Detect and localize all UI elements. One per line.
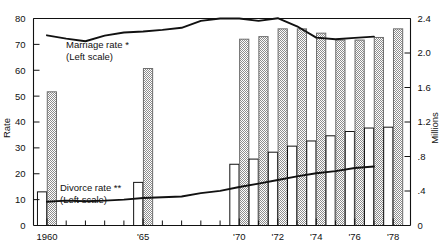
bar-marriages-1976 xyxy=(355,40,364,225)
x-ticklabel-'70: '70 xyxy=(233,231,245,242)
bar-marriages-1975 xyxy=(336,40,345,225)
bar-divorces-1975 xyxy=(326,136,335,226)
chart-canvas: 010203040506070800.4.81.21.62.02.41960'6… xyxy=(0,0,445,248)
bar-marriages-1978 xyxy=(393,29,402,226)
y-left-ticklabel-20: 20 xyxy=(15,168,26,179)
bar-divorces-1976 xyxy=(345,131,354,225)
bar-divorces-1960 xyxy=(37,192,46,226)
y-right-ticklabel-2.0: 2.0 xyxy=(418,47,431,58)
bar-divorces-1972 xyxy=(268,152,277,225)
y-left-ticklabel-30: 30 xyxy=(15,142,26,153)
y-right-ticklabel-.4: .4 xyxy=(418,185,426,196)
annotation-marriage-rate: Marriage rate * (Left scale) xyxy=(66,39,129,62)
y-right-ticklabel-.8: .8 xyxy=(418,151,426,162)
y-axis-left-title: Rate xyxy=(1,118,12,138)
y-right-ticklabel-1.6: 1.6 xyxy=(418,82,431,93)
bar-divorces-1965 xyxy=(134,182,143,225)
annotation-divorce-line2: (Left scale) xyxy=(60,194,107,205)
bar-marriages-1977 xyxy=(374,37,383,225)
y-left-ticklabel-10: 10 xyxy=(15,194,26,205)
bar-marriages-1965 xyxy=(143,69,152,226)
annotation-divorce-rate: Divorce rate ** (Left scale) xyxy=(60,182,122,205)
bar-marriages-1972 xyxy=(278,29,287,226)
y-left-ticklabel-80: 80 xyxy=(15,13,26,24)
x-ticklabel-'76: '76 xyxy=(349,231,361,242)
x-ticklabel-1960: 1960 xyxy=(36,231,57,242)
annotation-marriage-line1: Marriage rate * xyxy=(66,39,129,50)
y-left-ticklabel-50: 50 xyxy=(15,91,26,102)
y-left-ticklabel-70: 70 xyxy=(15,39,26,50)
bar-divorces-1978 xyxy=(384,127,393,225)
bar-marriages-1973 xyxy=(297,29,306,226)
y-left-ticklabel-40: 40 xyxy=(15,116,26,127)
x-ticklabel-'78: '78 xyxy=(387,231,399,242)
x-ticklabel-'74: '74 xyxy=(310,231,322,242)
bar-divorces-1971 xyxy=(249,159,258,225)
x-ticklabel-'65: '65 xyxy=(137,231,149,242)
bar-marriages-1971 xyxy=(259,37,268,226)
annotation-marriage-line2: (Left scale) xyxy=(66,51,113,62)
y-axis-right-title: Millions xyxy=(429,112,440,144)
bar-marriages-1970 xyxy=(240,39,249,225)
y-right-ticklabel-0: 0 xyxy=(418,220,423,231)
bar-divorces-1970 xyxy=(230,164,239,225)
y-left-ticklabel-60: 60 xyxy=(15,65,26,76)
bar-marriages-1974 xyxy=(317,33,326,225)
bar-divorces-1974 xyxy=(307,141,316,226)
bar-divorces-1973 xyxy=(288,146,297,225)
chart-figure: 010203040506070800.4.81.21.62.02.41960'6… xyxy=(0,0,445,248)
x-ticklabel-'72: '72 xyxy=(272,231,284,242)
bar-marriages-1960 xyxy=(47,92,56,226)
bar-divorces-1977 xyxy=(364,128,373,225)
y-left-ticklabel-0: 0 xyxy=(20,220,25,231)
y-right-ticklabel-2.4: 2.4 xyxy=(418,13,431,24)
annotation-divorce-line1: Divorce rate ** xyxy=(60,182,122,193)
line-marriage-rate xyxy=(47,18,374,41)
